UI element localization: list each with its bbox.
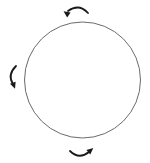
curved-arrow-bottom-icon xyxy=(70,146,95,156)
arrow-shaft xyxy=(68,7,88,13)
rotation-diagram xyxy=(0,0,150,163)
curved-arrow-left-icon xyxy=(10,66,18,90)
rotation-arrows xyxy=(10,7,95,155)
diagram-canvas xyxy=(0,0,150,163)
arrow-shaft xyxy=(70,151,89,156)
circle-outline xyxy=(25,22,141,138)
curved-arrow-top-icon xyxy=(62,7,88,17)
arrow-shaft xyxy=(11,66,16,84)
arrowhead-icon xyxy=(10,82,18,90)
